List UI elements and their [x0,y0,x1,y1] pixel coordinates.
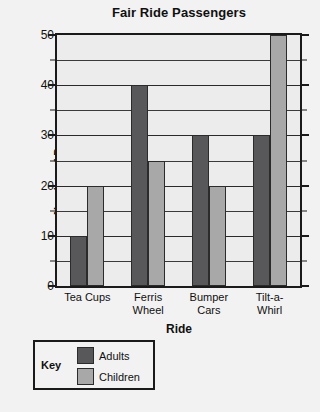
y-tick-right-10 [302,235,309,237]
legend-entry-children: Children [77,368,140,385]
x-category-label-0: Tea Cups [57,291,118,304]
y-tick-right-40 [302,84,309,86]
chart-legend: Key Adults Children [33,340,155,390]
y-minor-tick-25 [50,160,55,161]
y-tick-mark-0 [48,285,55,287]
x-category-label-2: BumperCars [179,291,240,317]
y-tick-right-30 [302,134,309,136]
x-axis-title: Ride [55,322,303,336]
y-minor-tick-right-35 [302,110,307,111]
y-minor-tick-right-15 [302,210,307,211]
bar-tea-cups-adults [70,236,87,286]
legend-label-adults: Adults [99,350,130,362]
y-minor-tick-35 [50,110,55,111]
gridline-35 [57,110,300,111]
chart-title: Fair Ride Passengers [55,5,303,20]
y-minor-tick-5 [50,260,55,261]
y-minor-tick-right-5 [302,260,307,261]
bar-ferris-wheel-adults [131,85,148,286]
chart-page: Fair Ride Passengers Number of Passenger… [0,0,320,412]
y-tick-right-0 [302,285,309,287]
legend-entry-adults: Adults [77,347,130,364]
x-category-label-3: Tilt-a-Whirl [239,291,300,317]
bar-tea-cups-children [87,186,104,286]
y-minor-tick-45 [50,60,55,61]
plot-area [55,33,302,288]
y-minor-tick-right-45 [302,60,307,61]
y-minor-tick-15 [50,210,55,211]
bar-tilt-a-whirl-children [270,35,287,286]
bar-ferris-wheel-children [148,161,165,287]
y-tick-right-50 [302,34,309,36]
y-tick-mark-40 [48,84,55,86]
y-tick-mark-20 [48,185,55,187]
y-tick-right-20 [302,185,309,187]
bar-bumper-cars-adults [192,135,209,286]
legend-title: Key [41,359,61,371]
bar-tilt-a-whirl-adults [253,135,270,286]
gridline-40 [57,85,300,86]
legend-swatch-adults [77,347,94,364]
bar-bumper-cars-children [209,186,226,286]
x-category-label-1: FerrisWheel [118,291,179,317]
y-tick-mark-50 [48,34,55,36]
gridline-45 [57,60,300,61]
y-minor-tick-right-25 [302,160,307,161]
legend-label-children: Children [99,371,140,383]
legend-swatch-children [77,368,94,385]
y-tick-mark-10 [48,235,55,237]
y-tick-mark-30 [48,134,55,136]
